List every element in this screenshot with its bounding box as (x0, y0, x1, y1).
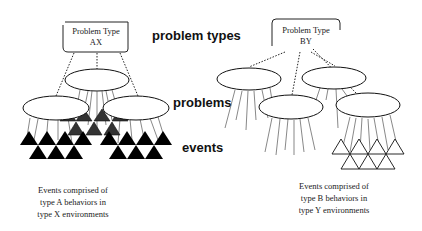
svg-text:type Y environments: type Y environments (299, 205, 370, 215)
label-events: events (182, 140, 223, 155)
by-problems (217, 67, 400, 119)
by-event-triangles (332, 139, 404, 169)
box-ax-line1: Problem Type (72, 26, 120, 36)
svg-text:type A behaviors in: type A behaviors in (40, 197, 107, 207)
problem-type-by-box: Problem Type BY (272, 19, 340, 46)
ax-problems-lower (23, 96, 169, 120)
box-by-line2: BY (300, 36, 312, 46)
ax-problems (65, 69, 129, 91)
diagram: Problem Type AX (0, 0, 422, 231)
by-caption: Events comprised of type B behaviors in … (299, 181, 370, 215)
svg-text:Events comprised of: Events comprised of (299, 181, 369, 191)
ax-caption: Events comprised of type A behaviors in … (37, 185, 108, 219)
problem-type-ax-box: Problem Type AX (63, 22, 128, 52)
label-problems: problems (173, 95, 232, 110)
box-by-line1: Problem Type (282, 25, 330, 35)
svg-text:type X environments: type X environments (37, 209, 108, 219)
label-problem-types: problem types (152, 28, 241, 43)
svg-text:Events comprised of: Events comprised of (38, 185, 108, 195)
box-ax-line2: AX (90, 37, 102, 47)
svg-text:type B behaviors in: type B behaviors in (301, 193, 368, 203)
